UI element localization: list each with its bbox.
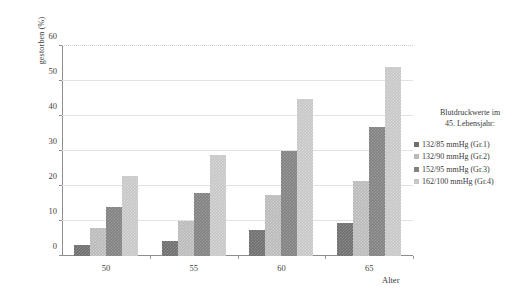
bar [249,230,265,256]
y-tick-label: 0 [53,241,57,251]
bar [210,155,226,257]
x-tick-mark [150,256,151,259]
legend-title: Blutdruckwerte im 45. Lebensjahr: [414,107,526,129]
bar [385,67,401,256]
bar [122,176,138,256]
bar-chart-figure: gestorben (%) 0102030405060 50556065 Alt… [0,0,526,301]
bar [353,181,369,256]
y-tick-label: 30 [49,136,58,146]
legend-item: 132/85 mmHg (Gr.1) [414,138,526,151]
legend-title-line-1: Blutdruckwerte im [440,108,500,117]
legend-label: 132/90 mmHg (Gr.2) [422,152,490,161]
bar-group [238,46,326,256]
legend-item: 152/95 mmHg (Gr.3) [414,163,526,176]
bar [297,99,313,257]
bar [281,151,297,256]
bar-series-container [62,46,413,256]
x-tick-label: 65 [365,263,374,273]
x-tick-mark [325,256,326,259]
y-tick-label: 20 [49,171,58,181]
bar [369,127,385,257]
bar [178,221,194,256]
legend-label: 162/100 mmHg (Gr.4) [422,177,494,186]
legend-label: 132/85 mmHg (Gr.1) [422,140,490,149]
legend: Blutdruckwerte im 45. Lebensjahr: 132/85… [414,107,526,188]
bar-group [62,46,150,256]
legend-title-line-2: 45. Lebensjahr: [414,118,526,129]
legend-item: 162/100 mmHg (Gr.4) [414,176,526,189]
legend-swatch [414,154,419,159]
bar [194,193,210,256]
x-axis-title: Alter [382,275,399,285]
bar [337,223,353,256]
legend-swatch [414,179,419,184]
y-tick-label: 10 [49,206,58,216]
bar [265,195,281,256]
y-tick-label: 60 [49,31,58,41]
bar [74,245,90,256]
bar [106,207,122,256]
y-tick-label: 50 [49,66,58,76]
bar [90,228,106,256]
plot-area: 0102030405060 50556065 [62,46,413,256]
x-tick-label: 60 [277,263,286,273]
bar [162,241,178,256]
y-axis-title: gestorben (%) [37,0,46,96]
legend-label: 152/95 mmHg (Gr.3) [422,165,490,174]
legend-swatch [414,167,419,172]
legend-swatch [414,142,419,147]
y-tick-label: 40 [49,101,58,111]
bar-group [325,46,413,256]
bar-group [150,46,238,256]
legend-items: 132/85 mmHg (Gr.1)132/90 mmHg (Gr.2)152/… [414,138,526,188]
x-tick-label: 55 [189,263,198,273]
x-tick-mark [238,256,239,259]
x-tick-mark [413,256,414,259]
x-tick-label: 50 [102,263,111,273]
legend-item: 132/90 mmHg (Gr.2) [414,151,526,164]
